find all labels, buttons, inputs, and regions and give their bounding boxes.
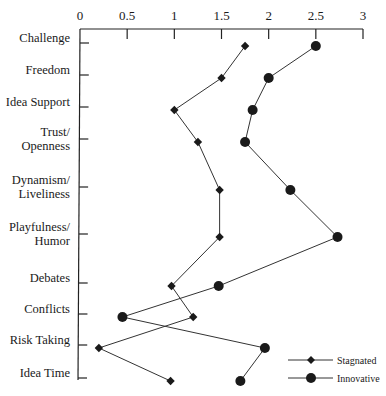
category-label: Openness [21, 139, 70, 153]
category-label: Conflicts [24, 302, 70, 316]
circle-marker [311, 41, 321, 51]
circle-marker [117, 312, 127, 322]
category-label: Freedom [26, 63, 71, 77]
x-tick-label: 1 [171, 8, 178, 23]
x-tick-label: 2.5 [308, 8, 324, 23]
circle-marker [214, 281, 224, 291]
circle-marker [235, 376, 245, 386]
series-layer [95, 41, 343, 386]
diamond-marker [170, 106, 178, 114]
series-line-stagnated [99, 46, 245, 381]
legend: StagnatedInnovative [288, 355, 380, 384]
legend-label: Innovative [337, 373, 380, 384]
category-label: Risk Taking [10, 333, 71, 347]
circle-marker [264, 73, 274, 83]
diamond-marker [215, 186, 223, 194]
category-label: Challenge [19, 31, 70, 45]
diamond-marker [189, 313, 197, 321]
circle-marker [333, 232, 343, 242]
series-line-innovative [122, 46, 337, 381]
category-label: Debates [30, 271, 70, 285]
x-tick-label: 1.5 [213, 8, 229, 23]
diamond-marker [95, 344, 103, 352]
circle-marker [240, 137, 250, 147]
category-label: Idea Support [6, 95, 71, 109]
x-tick-label: 2 [265, 8, 272, 23]
legend-circle-icon [306, 373, 316, 383]
category-label: Idea Time [20, 366, 71, 380]
diamond-marker [217, 74, 225, 82]
diamond-marker [194, 138, 202, 146]
circle-marker [285, 185, 295, 195]
diamond-marker [241, 42, 249, 50]
legend-diamond-icon [307, 356, 315, 364]
y-axis: ChallengeFreedomIdea SupportTrust/Openne… [6, 29, 89, 380]
y-axis-line [78, 29, 80, 380]
circle-marker [260, 343, 270, 353]
x-tick-label: 3 [360, 8, 367, 23]
diamond-marker [166, 377, 174, 385]
category-label: Humor [35, 234, 71, 248]
category-label: Trust/ [41, 125, 71, 139]
x-tick-label: 0.5 [119, 8, 135, 23]
category-label: Playfulness/ [9, 220, 71, 234]
x-tick-label: 0 [77, 8, 84, 23]
category-label: Dynamism/ [12, 173, 71, 187]
x-axis: 00.511.522.53 [77, 8, 367, 39]
category-label: Liveliness [19, 187, 71, 201]
line-chart: 00.511.522.53 ChallengeFreedomIdea Suppo… [0, 0, 386, 396]
legend-label: Stagnated [337, 355, 376, 366]
circle-marker [248, 105, 258, 115]
